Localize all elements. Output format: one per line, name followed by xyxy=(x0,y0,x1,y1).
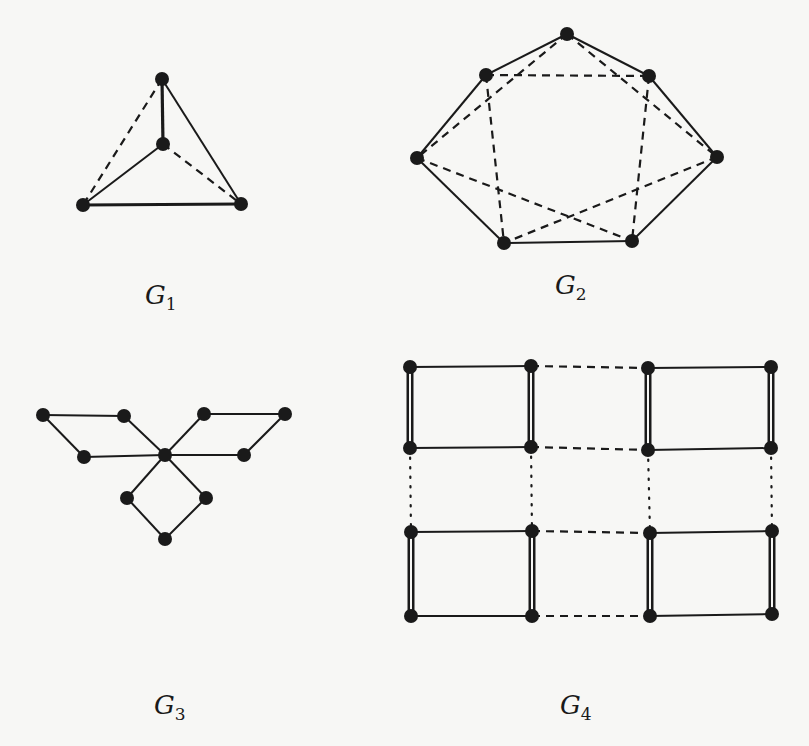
vertex xyxy=(404,609,418,623)
edge-dashed xyxy=(504,157,717,243)
vertex xyxy=(641,443,655,457)
vertex xyxy=(479,68,493,82)
vertex xyxy=(643,609,657,623)
edge-solid xyxy=(127,455,165,498)
vertex xyxy=(765,524,779,538)
graph-g2 xyxy=(410,27,724,250)
edge-solid xyxy=(650,531,772,533)
edge-solid xyxy=(632,157,717,241)
vertex xyxy=(765,607,779,621)
vertex xyxy=(404,525,418,539)
edge-solid xyxy=(567,34,649,76)
vertex xyxy=(710,150,724,164)
vertex xyxy=(158,448,172,462)
edge-dotted xyxy=(771,448,772,531)
vertex xyxy=(524,440,538,454)
label-g3: G3 xyxy=(154,690,186,724)
edge-dashed xyxy=(486,75,504,243)
vertex xyxy=(642,69,656,83)
vertex xyxy=(158,532,172,546)
vertex xyxy=(36,408,50,422)
edge-solid xyxy=(244,414,285,455)
vertex xyxy=(197,407,211,421)
edge-dashed xyxy=(486,75,649,76)
vertex xyxy=(525,524,539,538)
edge-dotted xyxy=(531,447,532,531)
graph-g1 xyxy=(76,72,248,212)
vertex xyxy=(77,450,91,464)
vertex xyxy=(403,441,417,455)
vertex xyxy=(764,441,778,455)
edge-dashed xyxy=(417,158,632,241)
edge-solid xyxy=(165,414,204,455)
vertex xyxy=(497,236,511,250)
edge-dashed xyxy=(417,34,567,158)
vertex xyxy=(410,151,424,165)
graph-figure xyxy=(0,0,809,746)
edge-solid xyxy=(43,415,124,416)
graph-g3 xyxy=(36,407,292,546)
edge-dotted xyxy=(410,448,411,532)
vertex xyxy=(524,359,538,373)
vertex xyxy=(525,609,539,623)
edge-solid xyxy=(162,79,241,204)
edge-solid xyxy=(649,76,717,157)
edge-dashed xyxy=(532,531,650,533)
edge-dashed xyxy=(632,76,649,241)
vertex xyxy=(560,27,574,41)
vertex xyxy=(117,409,131,423)
edge-solid xyxy=(650,614,772,616)
vertex xyxy=(237,448,251,462)
edge-thick xyxy=(162,79,163,144)
edge-solid xyxy=(648,448,771,450)
edge-solid xyxy=(43,415,84,457)
edge-solid xyxy=(417,158,504,243)
vertex xyxy=(643,526,657,540)
edge-solid xyxy=(504,241,632,243)
edge-dotted xyxy=(648,450,650,533)
vertex xyxy=(76,198,90,212)
vertex xyxy=(278,407,292,421)
label-g4: G4 xyxy=(560,690,592,724)
vertex xyxy=(641,361,655,375)
label-g1: G1 xyxy=(145,280,177,314)
vertex xyxy=(234,197,248,211)
edge-solid xyxy=(411,531,532,532)
edge-solid xyxy=(84,455,165,457)
vertex xyxy=(625,234,639,248)
edge-solid xyxy=(486,34,567,75)
vertex xyxy=(403,360,417,374)
edge-thick xyxy=(83,204,241,205)
vertex xyxy=(764,360,778,374)
edge-solid xyxy=(165,455,206,498)
edge-solid xyxy=(417,75,486,158)
edge-solid xyxy=(127,498,165,539)
edge-solid xyxy=(648,367,771,368)
label-g2: G2 xyxy=(555,270,587,304)
vertex xyxy=(155,72,169,86)
edge-solid xyxy=(83,144,163,205)
vertex xyxy=(120,491,134,505)
edge-solid xyxy=(410,447,531,448)
edge-dashed xyxy=(531,366,648,368)
graph-g4 xyxy=(403,359,779,623)
edge-solid xyxy=(124,416,165,455)
vertex xyxy=(199,491,213,505)
edge-dashed xyxy=(163,144,241,204)
edge-solid xyxy=(410,366,531,367)
edge-dashed xyxy=(531,447,648,450)
edge-dashed xyxy=(83,79,162,205)
edge-solid xyxy=(165,498,206,539)
vertex xyxy=(156,137,170,151)
